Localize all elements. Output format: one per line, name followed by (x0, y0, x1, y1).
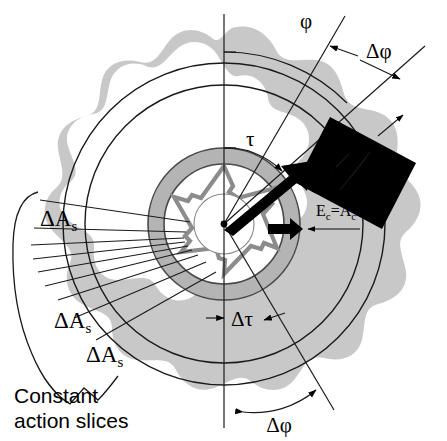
delta-phi-bottom-annotation: Δφ (243, 390, 316, 437)
caption-line-1: Constant (14, 384, 98, 407)
tau-label: τ (246, 127, 254, 151)
phi-label: φ (300, 9, 312, 33)
constant-action-slices-diagram: ΔAs(φ) φ Δφ τ Es(φ) (0, 0, 447, 441)
figure-container: ΔAs(φ) φ Δφ τ Es(φ) (0, 0, 447, 441)
delta-phi-top-label: Δφ (366, 39, 392, 63)
delta-phi-top-annotation: Δφ (330, 39, 400, 79)
delta-tau-label: Δτ (231, 307, 253, 331)
caption-line-2: action slices (14, 409, 128, 432)
es-phi-label: Es(φ) (328, 131, 368, 155)
delta-phi-bottom-label: Δφ (266, 413, 292, 437)
delta-as-label-2: ΔAs (54, 308, 91, 336)
